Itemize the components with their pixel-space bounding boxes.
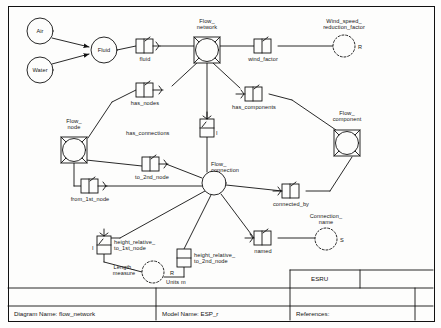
references-field: References:	[296, 310, 329, 317]
rel-named-label: named	[247, 248, 279, 254]
diagram-page: Air Water Fluid Flow_ network Flow_ node…	[0, 0, 441, 328]
rel-height-2nd-label: height_relative_ to_2nd_node	[194, 252, 235, 265]
rel-from-1st-node-label: from_1st_node	[64, 196, 116, 202]
rel-to-2nd-node-label: to_2nd_node	[129, 174, 175, 180]
rel-connected-by-shape[interactable]	[273, 182, 299, 198]
rel-fluid-shape[interactable]	[136, 37, 160, 53]
rel-from-1st-node-shape[interactable]	[81, 177, 107, 193]
type-length-measure-units: Units m	[166, 279, 186, 285]
type-connection-name-shape[interactable]	[315, 228, 337, 250]
type-length-measure-cardinality: R	[170, 270, 174, 276]
rel-height-1st-cardinality: I	[92, 245, 94, 251]
model-name-field: Model Name: ESP_r	[162, 310, 218, 317]
edge-air-fluid	[52, 38, 89, 47]
type-length-measure-label: Length_ measure	[103, 264, 145, 277]
type-wind-speed-label: Wind_speed_ reduction_factor	[306, 18, 382, 31]
rel-has-components-label: has_components	[225, 104, 283, 110]
type-length-measure-shape[interactable]	[142, 261, 164, 283]
entity-fluid-label: Fluid	[92, 47, 116, 53]
entity-flow-node-shape[interactable]	[61, 137, 87, 163]
type-wind-speed-shape[interactable]	[333, 35, 355, 57]
type-connection-name-cardinality: S	[340, 237, 344, 243]
rel-has-nodes-label: has_nodes	[123, 100, 167, 106]
entity-flow-network-shape[interactable]	[194, 37, 220, 63]
entity-flow-component-label: Flow_ component	[322, 110, 372, 123]
type-wind-speed-cardinality: R	[358, 44, 362, 50]
entity-air-label: Air	[28, 28, 52, 34]
rel-to-2nd-node-shape[interactable]	[142, 155, 168, 171]
rel-height-1st-label: height_relative_ to_1st_node	[114, 239, 155, 252]
edge-water-fluid	[52, 54, 89, 64]
edge-network-hascomponents	[213, 63, 336, 130]
rel-wind-factor-shape[interactable]	[254, 37, 271, 53]
rel-fluid-label: fluid	[131, 56, 159, 62]
entity-flow-connection-label: Flow_ connection	[211, 161, 263, 174]
rel-connected-by-label: connected_by	[267, 201, 315, 207]
edge-fluid-network	[117, 46, 194, 50]
rel-flow-net-instance-cardinality: I	[216, 130, 218, 136]
rel-height-1st-shape[interactable]	[97, 229, 111, 254]
type-connection-name-label: Connection_ name	[294, 213, 358, 226]
entity-flow-node-label: Flow_ node	[53, 118, 95, 131]
diagram-name-field: Diagram Name: flow_network	[14, 310, 95, 317]
rel-has-connections-shape[interactable]	[200, 112, 214, 137]
rel-height-2nd-shape[interactable]	[177, 249, 191, 267]
rel-has-nodes-shape[interactable]	[136, 81, 163, 97]
entity-water-label: Water	[26, 67, 54, 73]
entity-flow-component-shape[interactable]	[334, 130, 360, 156]
organisation-field: ESRU	[311, 275, 328, 282]
entity-flow-connection-shape[interactable]	[202, 171, 226, 195]
rel-wind-factor-label: wind_factor	[238, 56, 288, 62]
entity-flow-network-label: Flow_ network	[186, 18, 228, 31]
rel-has-connections-label: has_connections	[126, 130, 169, 136]
